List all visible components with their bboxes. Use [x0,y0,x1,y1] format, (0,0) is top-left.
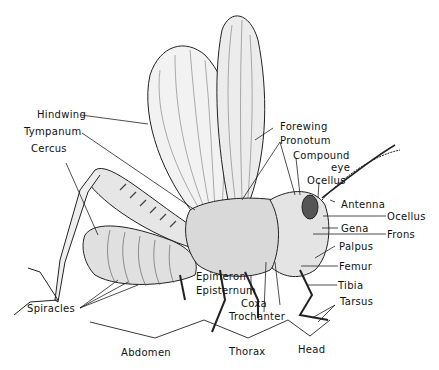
grasshopper-diagram: Hindwing Tympanum Cercus Forewing Pronot… [0,0,439,370]
head-bracket [288,320,330,336]
label-thorax: Thorax [229,346,266,357]
label-tarsus: Tarsus [340,296,373,307]
grasshopper-illustration [0,0,439,370]
label-antenna: Antenna [341,199,385,210]
label-abdomen: Abdomen [121,347,171,358]
label-femur: Femur [339,261,372,272]
label-ocellus-top: Ocellus [307,175,346,186]
label-episternum: Episternum [196,285,256,296]
label-palpus: Palpus [339,241,373,252]
label-tibia: Tibia [338,280,363,291]
label-hindwing: Hindwing [37,109,86,120]
abdomen-bracket [90,320,204,338]
label-cercus: Cercus [31,143,67,154]
label-frons: Frons [387,229,415,240]
label-spiracles: Spiracles [27,303,75,314]
label-coxa: Coxa [241,298,267,309]
label-head: Head [298,344,325,355]
label-compound-eye: Compound [293,150,350,161]
label-ocellus-side: Ocellus [387,211,426,222]
label-epimeron: Epimeron [196,271,246,282]
label-forewing: Forewing [280,121,328,132]
thorax-shape [186,198,282,276]
label-trochanter: Trochanter [229,311,285,322]
compound-eye-shape [302,195,318,219]
label-tympanum: Tympanum [24,126,82,137]
label-pronotum: Pronotum [280,135,331,146]
label-gena: Gena [341,223,369,234]
label-compound-eye-2: eye [331,162,350,173]
